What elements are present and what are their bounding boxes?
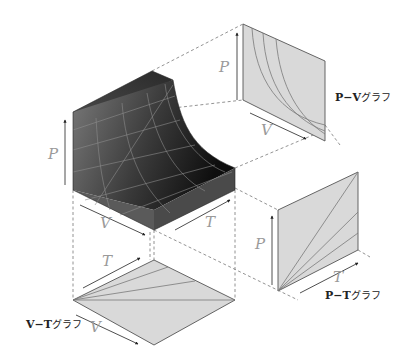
pv-p-label: P xyxy=(219,60,229,75)
pv-title-suffix: グラフ xyxy=(361,92,391,103)
pt-graph-panel xyxy=(272,172,358,293)
pt-title-suffix: グラフ xyxy=(351,290,381,301)
pt-graph-title: P−Tグラフ xyxy=(325,290,381,301)
vt-title-vars: V−T xyxy=(26,318,52,331)
pv-title-vars: P−V xyxy=(335,91,361,104)
vt-graph-title: V−Tグラフ xyxy=(26,319,82,330)
solid-t-label: T xyxy=(205,215,215,230)
pv-graph-title: P−Vグラフ xyxy=(335,92,391,103)
solid-p-label: P xyxy=(48,147,58,162)
pv-graph-panel xyxy=(237,24,325,141)
solid-v-label: V xyxy=(100,216,111,231)
pv-v-label: V xyxy=(261,123,272,138)
vt-title-suffix: グラフ xyxy=(52,319,82,330)
pt-p-label: P xyxy=(255,237,265,252)
pt-title-vars: P−T xyxy=(325,289,351,302)
vt-t-label: T xyxy=(102,254,112,269)
pvt-diagram xyxy=(0,0,407,363)
vt-v-label: V xyxy=(90,320,101,335)
pvt-surface-solid xyxy=(73,71,235,230)
pt-t-label: T xyxy=(333,270,343,285)
